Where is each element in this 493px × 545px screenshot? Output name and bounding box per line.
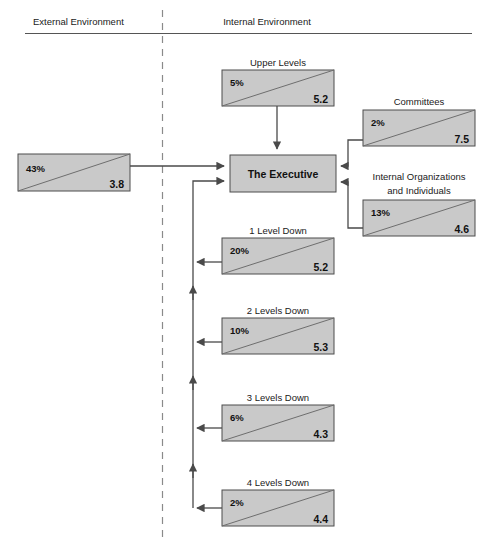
level3-value: 4.3 xyxy=(313,428,328,440)
internal-orgs-value: 4.6 xyxy=(454,223,469,235)
upper-levels-caption: Upper Levels xyxy=(250,57,306,68)
level2-caption: 2 Levels Down xyxy=(247,305,309,316)
external-node-percent: 43% xyxy=(26,163,46,174)
internal-orgs-caption-line2: and Individuals xyxy=(387,185,451,196)
upper-levels-value: 5.2 xyxy=(313,93,328,105)
executive-label: The Executive xyxy=(248,168,319,180)
level3-percent: 6% xyxy=(230,412,244,423)
diagram-canvas: External Environment Internal Environmen… xyxy=(0,0,493,545)
committees-value: 7.5 xyxy=(454,133,469,145)
node-level-2-down[interactable]: 2 Levels Down 10% 5.3 xyxy=(222,305,334,354)
node-the-executive[interactable]: The Executive xyxy=(230,155,336,192)
level1-percent: 20% xyxy=(230,245,250,256)
internal-orgs-percent: 13% xyxy=(371,207,391,218)
node-level-3-down[interactable]: 3 Levels Down 6% 4.3 xyxy=(222,392,334,441)
external-node-value: 3.8 xyxy=(109,178,124,190)
committees-percent: 2% xyxy=(371,117,385,128)
connector-committees-to-executive xyxy=(341,140,363,166)
level4-percent: 2% xyxy=(230,497,244,508)
committees-caption: Committees xyxy=(394,96,445,107)
level1-value: 5.2 xyxy=(313,261,328,273)
node-committees[interactable]: Committees 2% 7.5 xyxy=(363,96,475,146)
level2-percent: 10% xyxy=(230,325,250,336)
internal-environment-label: Internal Environment xyxy=(223,16,311,27)
level1-caption: 1 Level Down xyxy=(249,225,307,236)
level2-value: 5.3 xyxy=(313,341,328,353)
upper-levels-percent: 5% xyxy=(230,77,244,88)
organizational-influence-diagram: External Environment Internal Environmen… xyxy=(0,0,493,545)
node-external-environment[interactable]: 43% 3.8 xyxy=(18,154,130,191)
external-environment-label: External Environment xyxy=(33,16,124,27)
node-level-1-down[interactable]: 1 Level Down 20% 5.2 xyxy=(222,225,334,274)
level4-value: 4.4 xyxy=(313,513,328,525)
node-internal-organizations[interactable]: Internal Organizations and Individuals 1… xyxy=(363,171,475,236)
level3-caption: 3 Levels Down xyxy=(247,392,309,403)
level4-caption: 4 Levels Down xyxy=(247,477,309,488)
node-level-4-down[interactable]: 4 Levels Down 2% 4.4 xyxy=(222,477,334,526)
node-upper-levels[interactable]: Upper Levels 5% 5.2 xyxy=(222,57,334,106)
internal-orgs-caption-line1: Internal Organizations xyxy=(373,171,466,182)
connector-feedback-spine-to-executive xyxy=(193,181,224,508)
connector-internal-orgs-to-executive xyxy=(341,182,363,228)
